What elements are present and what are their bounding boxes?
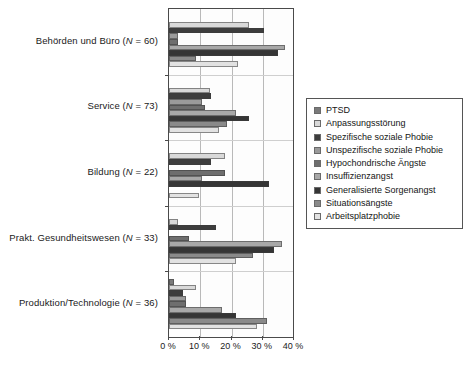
chart-legend: PTSDAnpassungsstörungSpezifische soziale… [306,98,463,229]
bar [169,28,264,34]
legend-label: Anpassungsstörung [326,118,406,129]
legend-item[interactable]: Hypochondrische Ängste [314,158,456,169]
legend-item[interactable]: Anpassungsstörung [314,118,456,129]
y-axis-label-3: Prakt. Gesundheitswesen (N = 33) [9,232,158,243]
plot-frame-right [293,8,294,338]
y-axis-tickmark [165,271,169,272]
legend-swatch-icon [314,187,321,194]
legend-swatch-icon [314,134,321,141]
legend-swatch-icon [314,200,321,207]
legend-item[interactable]: Unspezifische soziale Phobie [314,145,456,156]
legend-swatch-icon [314,107,321,114]
y-axis-category-labels: Behörden und Büro (N = 60)Service (N = 7… [0,8,162,336]
bar [169,61,238,67]
legend-item[interactable]: PTSD [314,105,456,116]
legend-item[interactable]: Situationsängste [314,198,456,209]
x-axis-tick-label-40: 40 % [283,341,304,351]
legend-label: Situationsängste [326,198,393,209]
legend-swatch-icon [314,120,321,127]
group-separator [169,140,294,141]
bar [169,225,216,231]
y-axis-label-1: Service (N = 73) [87,100,158,111]
legend-item[interactable]: Generalisierte Sorgenangst [314,185,456,196]
bar [169,258,236,264]
x-axis-tickmark-30 [262,336,263,340]
x-axis-tickmark-0 [168,336,169,340]
y-axis-label-0: Behörden und Büro (N = 60) [36,35,158,46]
gridline-30 [263,9,264,337]
legend-item[interactable]: Spezifische soziale Phobie [314,132,456,143]
group-separator [169,75,294,76]
y-axis-tickmark [165,75,169,76]
chart-figure: Behörden und Büro (N = 60)Service (N = 7… [0,0,471,373]
x-axis-tick-label-30: 30 % [251,341,272,351]
legend-label: Unspezifische soziale Phobie [326,145,443,156]
bar [169,324,257,330]
gridline-20 [232,9,233,337]
bar [169,159,211,165]
y-axis-tickmark [165,206,169,207]
legend-label: Arbeitsplatzphobie [326,211,400,222]
y-axis-tickmark [165,140,169,141]
legend-item[interactable]: Arbeitsplatzphobie [314,211,456,222]
bar [169,193,199,199]
x-axis-tickmark-40 [293,336,294,340]
bar [169,181,269,187]
legend-label: Generalisierte Sorgenangst [326,185,436,196]
legend-swatch-icon [314,213,321,220]
group-separator [169,271,294,272]
y-axis-label-2: Bildung (N = 22) [87,166,158,177]
group-separator [169,206,294,207]
legend-label: Hypochondrische Ängste [326,158,426,169]
legend-swatch-icon [314,173,321,180]
plot-area [168,8,294,338]
legend-swatch-icon [314,147,321,154]
legend-swatch-icon [314,160,321,167]
x-axis-ticks: 0 %10 %20 %30 %40 % [0,336,471,356]
x-axis-tickmark-20 [231,336,232,340]
bar [169,127,219,133]
legend-label: PTSD [326,105,350,116]
legend-item[interactable]: Insuffizienzangst [314,171,456,182]
legend-label: Insuffizienzangst [326,171,393,182]
x-axis-tick-label-0: 0 % [160,341,176,351]
x-axis-tick-label-10: 10 % [189,341,210,351]
x-axis-tickmark-10 [199,336,200,340]
x-axis-tick-label-20: 20 % [220,341,241,351]
y-axis-label-4: Produktion/Technologie (N = 36) [19,297,158,308]
legend-label: Spezifische soziale Phobie [326,132,433,143]
